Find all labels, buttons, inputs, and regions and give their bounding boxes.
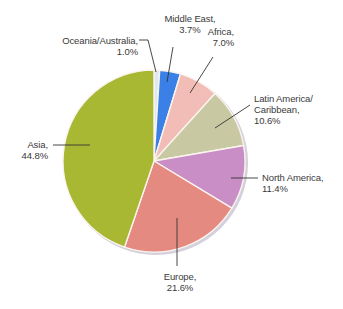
label-europe: Europe, 21.6% [155,271,205,293]
label-africa: Africa, 7.0% [200,26,234,48]
label-asia: Asia, 44.8% [10,139,48,161]
leader-line-oceania [139,40,156,72]
label-oceania: Oceania/Australia, 1.0% [48,35,138,57]
pie-slices [63,70,245,252]
label-latin-america: Latin America/ Caribbean, 10.6% [254,93,334,126]
label-north-america: North America, 11.4% [262,172,342,194]
